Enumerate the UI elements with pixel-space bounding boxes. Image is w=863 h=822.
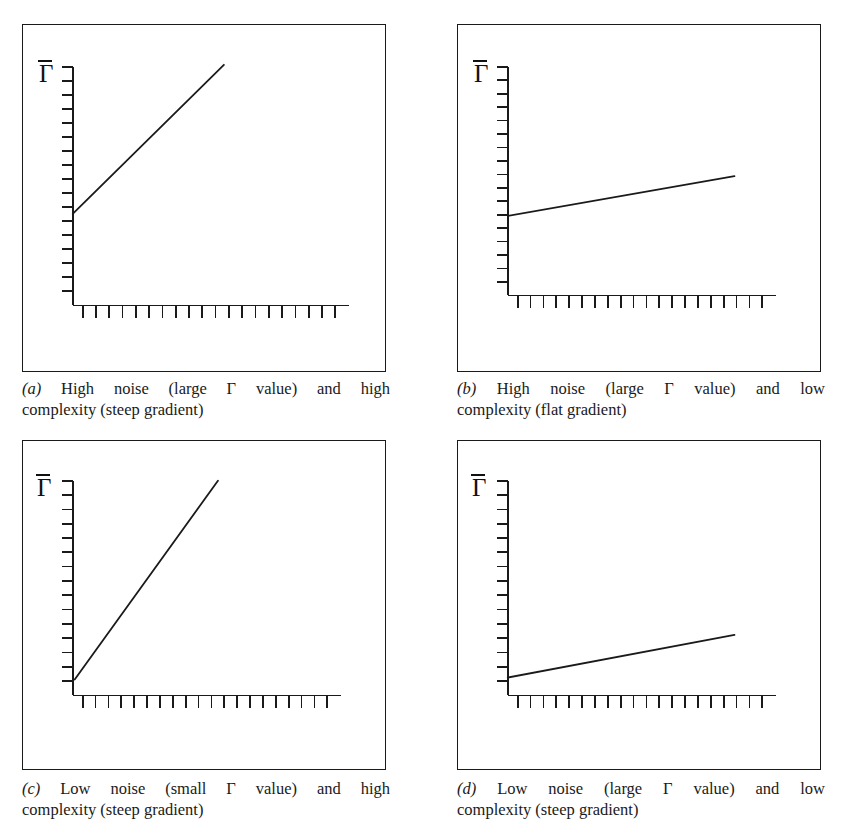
panel-b-x-ticks <box>518 295 763 308</box>
panel-d-plot-frame: Γ <box>457 440 821 770</box>
panel-d-data-line <box>508 635 735 678</box>
gamma-bar-glyph: Γ <box>474 59 488 86</box>
panel-c-y-axis-label: Γ <box>37 473 51 500</box>
panel-a-y-ticks <box>62 67 73 292</box>
panel-b-plot-frame: Γ <box>457 24 821 372</box>
gamma-bar-glyph: Γ <box>472 473 486 500</box>
panel-b: Γ (b) High noise (large Γ value) and low… <box>433 0 863 430</box>
panel-c: Γ (c) Low noise (small Γ value) and high… <box>0 430 433 822</box>
panel-d-plot <box>458 441 820 769</box>
panel-d-x-ticks <box>518 695 763 708</box>
panel-a-y-axis-label: Γ <box>39 59 53 86</box>
panel-a-x-ticks <box>83 305 336 318</box>
panel-a-plot <box>23 25 385 371</box>
panel-c-plot <box>23 441 385 769</box>
panel-b-caption-line2: complexity (flat gradient) <box>457 399 825 420</box>
panel-b-caption-tag: (b) <box>457 379 476 398</box>
panel-a-caption: (a) High noise (large Γ value) and high … <box>22 378 390 420</box>
gamma-bar-glyph: Γ <box>39 59 53 86</box>
panel-d-caption: (d) Low noise (large Γ value) and low co… <box>457 778 825 820</box>
panel-c-caption-tag: (c) <box>22 779 40 798</box>
panel-b-plot <box>458 25 820 371</box>
panel-b-data-line <box>508 176 735 216</box>
gamma-bar-glyph: Γ <box>37 473 51 500</box>
panel-grid: Γ (a) High noise (large Γ value) and hig… <box>0 0 863 822</box>
panel-a: Γ (a) High noise (large Γ value) and hig… <box>0 0 433 430</box>
panel-d-caption-line1: Low noise (large Γ value) and low <box>497 779 825 798</box>
panel-a-data-line <box>73 65 224 214</box>
panel-c-caption: (c) Low noise (small Γ value) and high c… <box>22 778 390 820</box>
panel-a-caption-tag: (a) <box>22 379 41 398</box>
panel-d: Γ (d) Low noise (large Γ value) and low … <box>433 430 863 822</box>
figure-root: Γ (a) High noise (large Γ value) and hig… <box>0 0 863 822</box>
panel-a-caption-line1: High noise (large Γ value) and high <box>61 379 390 398</box>
panel-c-x-ticks <box>83 695 328 708</box>
panel-c-plot-frame: Γ <box>22 440 386 770</box>
panel-b-caption-line1: High noise (large Γ value) and low <box>497 379 825 398</box>
panel-d-caption-tag: (d) <box>457 779 476 798</box>
panel-a-caption-line2: complexity (steep gradient) <box>22 399 390 420</box>
panel-c-caption-line1: Low noise (small Γ value) and high <box>60 779 390 798</box>
panel-c-y-ticks <box>62 481 73 681</box>
panel-b-y-ticks <box>497 67 508 282</box>
panel-b-caption: (b) High noise (large Γ value) and low c… <box>457 378 825 420</box>
panel-c-caption-line2: complexity (steep gradient) <box>22 799 390 820</box>
panel-d-y-axis-label: Γ <box>472 473 486 500</box>
panel-c-data-line <box>75 481 218 680</box>
panel-a-plot-frame: Γ <box>22 24 386 372</box>
panel-d-caption-line2: complexity (steep gradient) <box>457 799 825 820</box>
panel-b-y-axis-label: Γ <box>474 59 488 86</box>
panel-d-y-ticks <box>497 481 508 681</box>
